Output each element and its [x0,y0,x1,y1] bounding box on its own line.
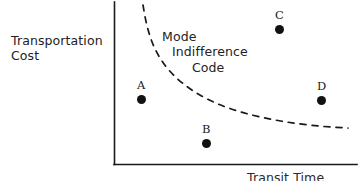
data-point-dot-c [275,25,284,34]
data-point-dot-a [137,95,146,104]
data-point-label-d: D [317,79,326,93]
indifference-curve-path [143,5,348,128]
annotation-line-code: Code [192,60,224,75]
data-point-label-b: B [202,122,210,136]
annotation-line-mode: Mode [162,29,196,44]
x-axis-label: Transit Time [247,170,324,181]
data-point-dot-b [202,139,211,148]
annotation-line-indifference: Indifference [172,44,248,59]
data-point-label-c: C [275,8,284,22]
transportation-cost-chart: Transportation Cost Transit Time Mode In… [0,0,359,181]
y-axis-label: Transportation Cost [11,33,103,63]
mode-indifference-curve [0,0,359,181]
data-point-label-a: A [137,78,145,92]
data-point-dot-d [317,96,326,105]
